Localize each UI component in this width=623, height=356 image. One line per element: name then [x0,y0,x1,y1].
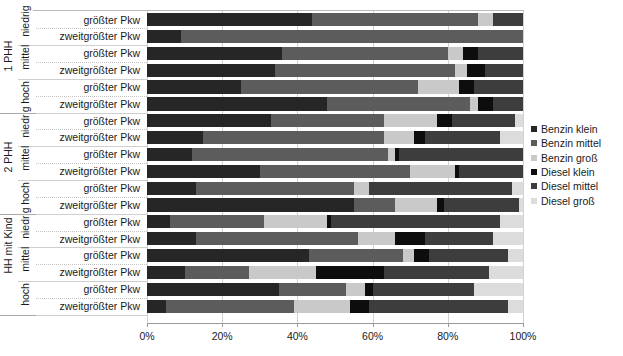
bar-segment[interactable] [192,148,388,161]
bar-segment[interactable] [147,232,196,245]
legend-item[interactable]: Benzin klein [531,122,621,136]
bar-segment[interactable] [515,114,523,127]
bar-segment[interactable] [170,215,264,228]
bar-segment[interactable] [260,165,410,178]
bar-segment[interactable] [312,13,477,26]
legend-item[interactable]: Diesel klein [531,165,621,179]
bar-segment[interactable] [414,131,425,144]
bar-segment[interactable] [455,64,466,77]
stacked-bar[interactable] [147,131,523,144]
bar-segment[interactable] [459,80,474,93]
bar-segment[interactable] [147,198,354,211]
bar-segment[interactable] [147,47,282,60]
bar-segment[interactable] [493,232,523,245]
bar-segment[interactable] [425,131,500,144]
bar-segment[interactable] [147,148,192,161]
stacked-bar[interactable] [147,215,523,228]
stacked-bar[interactable] [147,249,523,262]
stacked-bar[interactable] [147,266,523,279]
bar-segment[interactable] [395,198,436,211]
bar-segment[interactable] [275,64,455,77]
bar-segment[interactable] [354,182,369,195]
bar-segment[interactable] [478,47,523,60]
bar-segment[interactable] [147,283,279,296]
bar-segment[interactable] [444,198,519,211]
bar-segment[interactable] [241,80,418,93]
bar-segment[interactable] [282,47,447,60]
stacked-bar[interactable] [147,64,523,77]
stacked-bar[interactable] [147,283,523,296]
bar-segment[interactable] [369,300,508,313]
stacked-bar[interactable] [147,97,523,110]
bar-segment[interactable] [437,114,452,127]
bar-segment[interactable] [309,249,403,262]
bar-segment[interactable] [271,114,384,127]
bar-segment[interactable] [512,182,523,195]
bar-segment[interactable] [429,249,508,262]
bar-segment[interactable] [365,283,373,296]
legend-item[interactable]: Diesel groß [531,193,621,207]
legend-item[interactable]: Diesel mittel [531,179,621,193]
stacked-bar[interactable] [147,30,523,43]
stacked-bar[interactable] [147,80,523,93]
bar-segment[interactable] [474,283,523,296]
bar-segment[interactable] [470,97,478,110]
bar-segment[interactable] [437,198,445,211]
legend-item[interactable]: Benzin mittel [531,136,621,150]
bar-segment[interactable] [418,80,459,93]
bar-segment[interactable] [350,300,369,313]
bar-segment[interactable] [346,283,365,296]
bar-segment[interactable] [147,249,309,262]
bar-segment[interactable] [249,266,317,279]
bar-segment[interactable] [508,249,523,262]
bar-segment[interactable] [147,131,203,144]
bar-segment[interactable] [166,300,294,313]
stacked-bar[interactable] [147,47,523,60]
bar-segment[interactable] [196,182,354,195]
bar-segment[interactable] [519,198,523,211]
bar-segment[interactable] [500,131,523,144]
stacked-bar[interactable] [147,148,523,161]
bar-segment[interactable] [425,232,493,245]
bar-segment[interactable] [181,30,523,43]
stacked-bar[interactable] [147,198,523,211]
bar-segment[interactable] [478,13,493,26]
bar-segment[interactable] [147,80,241,93]
bar-segment[interactable] [147,13,312,26]
bar-segment[interactable] [147,300,166,313]
bar-segment[interactable] [414,249,429,262]
bar-segment[interactable] [463,47,478,60]
bar-segment[interactable] [508,300,523,313]
bar-segment[interactable] [478,97,493,110]
legend-item[interactable]: Benzin groß [531,151,621,165]
bar-segment[interactable] [395,232,425,245]
bar-segment[interactable] [388,148,396,161]
stacked-bar[interactable] [147,300,523,313]
bar-segment[interactable] [373,283,475,296]
bar-segment[interactable] [354,198,395,211]
bar-segment[interactable] [384,266,489,279]
bar-segment[interactable] [399,148,523,161]
bar-segment[interactable] [147,266,185,279]
bar-segment[interactable] [316,266,384,279]
bar-segment[interactable] [489,266,523,279]
bar-segment[interactable] [147,64,275,77]
bar-segment[interactable] [467,64,486,77]
bar-segment[interactable] [196,232,358,245]
bar-segment[interactable] [147,182,196,195]
stacked-bar[interactable] [147,182,523,195]
bar-segment[interactable] [410,165,455,178]
stacked-bar[interactable] [147,232,523,245]
bar-segment[interactable] [485,64,523,77]
bar-segment[interactable] [147,215,170,228]
bar-segment[interactable] [294,300,350,313]
bar-segment[interactable] [279,283,347,296]
bar-segment[interactable] [331,215,500,228]
stacked-bar[interactable] [147,165,523,178]
stacked-bar[interactable] [147,114,523,127]
bar-segment[interactable] [358,232,396,245]
bar-segment[interactable] [384,131,414,144]
bar-segment[interactable] [493,13,523,26]
bar-segment[interactable] [203,131,383,144]
bar-segment[interactable] [448,47,463,60]
